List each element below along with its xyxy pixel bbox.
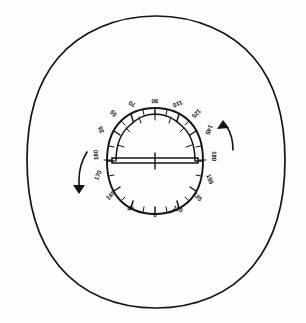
degree-label: 90: [151, 98, 159, 105]
degree-label: 145: [204, 124, 214, 137]
counterclockwise-rotation-arrow: [73, 152, 87, 194]
degree-label: 55: [108, 108, 118, 118]
baseline-bar: [104, 153, 206, 169]
degree-label: 180: [92, 149, 99, 160]
degree-label: 110: [172, 204, 184, 214]
degree-label: 70: [127, 99, 137, 108]
outer-circle: [27, 16, 285, 308]
degree-label: 110: [172, 99, 184, 109]
clockwise-rotation-arrow: [217, 120, 233, 150]
compass-dial-diagram: 90 70 110 55 125 35 145 180 180 170 155 …: [0, 0, 306, 323]
degree-label: 155: [205, 173, 215, 186]
drawing-canvas: 90 70 110 55 125 35 145 180 180 170 155 …: [0, 0, 306, 323]
degree-label: 35: [96, 125, 105, 134]
degree-label: 125: [190, 108, 203, 121]
degree-label: 170: [93, 168, 103, 181]
degree-label: 180: [211, 151, 218, 162]
degree-label: 135: [192, 190, 205, 203]
protractor-ticks: [118, 114, 192, 147]
